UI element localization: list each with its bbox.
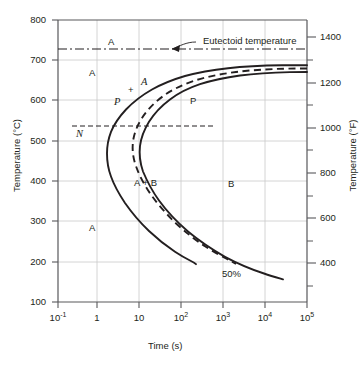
region-austenite-lower: A bbox=[89, 222, 95, 233]
x-axis-ticks bbox=[58, 302, 307, 308]
y-tick-left-400: 400 bbox=[16, 175, 46, 186]
y-gridlines bbox=[58, 60, 307, 262]
x-tick-1e3: 103 bbox=[203, 311, 243, 323]
y-tick-left-700: 700 bbox=[16, 54, 46, 65]
y-tick-right-1400: 1400 bbox=[320, 31, 350, 42]
y-tick-right-800: 800 bbox=[320, 167, 350, 178]
region-pearlite-austenite-p: P bbox=[114, 96, 120, 107]
ttt-diagram-figure: Temperature (°C) Temperature (°F) Time (… bbox=[0, 0, 364, 367]
y-tick-right-400: 400 bbox=[320, 257, 350, 268]
fifty-percent-label: 50% bbox=[222, 268, 241, 279]
transformation-start-curve bbox=[107, 65, 307, 264]
transformation-fifty-percent-curve bbox=[133, 69, 307, 265]
x-tick-10: 10 bbox=[119, 311, 159, 323]
y-axis-right-title: Temperature (°F) bbox=[347, 96, 358, 216]
region-pearlite-austenite-plus: + bbox=[128, 84, 134, 95]
y-axis-left-ticks bbox=[52, 20, 58, 302]
x-tick-1e5: 105 bbox=[287, 311, 327, 323]
y-tick-right-1000: 1000 bbox=[320, 122, 350, 133]
region-bainite: B bbox=[228, 178, 234, 189]
region-pearlite: P bbox=[190, 95, 196, 106]
x-axis-title: Time (s) bbox=[148, 340, 182, 351]
y-tick-left-300: 300 bbox=[16, 215, 46, 226]
x-gridlines bbox=[97, 20, 265, 302]
region-austenite-bainite: A + B bbox=[134, 177, 157, 188]
region-austenite-upper: A bbox=[89, 67, 95, 78]
x-tick-1: 1 bbox=[77, 311, 117, 323]
y-axis-left-title: Temperature (°C) bbox=[11, 96, 22, 216]
region-austenite-above: A bbox=[108, 36, 114, 47]
x-tick-1e2: 102 bbox=[161, 311, 201, 323]
y-tick-left-500: 500 bbox=[16, 135, 46, 146]
region-pearlite-austenite-a: A bbox=[141, 76, 147, 87]
y-tick-right-1200: 1200 bbox=[320, 77, 350, 88]
y-tick-left-800: 800 bbox=[16, 14, 46, 25]
eutectoid-temperature-label: Eutectoid temperature bbox=[203, 35, 296, 46]
eutectoid-arrowhead bbox=[172, 45, 180, 52]
y-tick-left-100: 100 bbox=[16, 296, 46, 307]
x-tick-1e4: 104 bbox=[245, 311, 285, 323]
plot-frame bbox=[58, 20, 307, 302]
x-tick-1e-1: 10-1 bbox=[38, 311, 78, 323]
y-tick-right-600: 600 bbox=[320, 212, 350, 223]
nose-marker-label: N bbox=[76, 128, 83, 139]
y-tick-left-200: 200 bbox=[16, 256, 46, 267]
y-tick-left-600: 600 bbox=[16, 94, 46, 105]
